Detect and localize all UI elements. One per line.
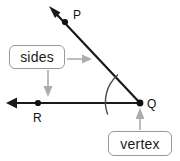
ray-qr [6,98,140,109]
ray-qp-line [54,11,141,103]
sides-right-connector-arrowhead [82,55,92,64]
callout-vertex-label: vertex [120,137,159,151]
ray-qr-arrowhead [6,98,17,109]
callout-sides-label: sides [20,50,54,64]
point-r-label: R [33,111,42,125]
angle-arc [105,75,117,114]
point-q-dot [137,100,144,107]
callout-sides[interactable]: sides [9,45,65,69]
sides-down-connector-arrowhead [44,86,53,97]
vertex-connector-arrowhead [136,108,145,119]
point-q-label: Q [147,97,156,111]
callout-vertex[interactable]: vertex [108,131,172,156]
point-p-dot [62,19,68,25]
sides-to-ray-qp-connector [67,55,92,64]
sides-to-ray-qr-connector [44,70,53,97]
angle-diagram: P Q R sides vertex [0,0,180,161]
vertex-to-point-q-connector [136,108,145,130]
point-p-label: P [73,8,81,22]
point-r-dot [35,100,41,106]
